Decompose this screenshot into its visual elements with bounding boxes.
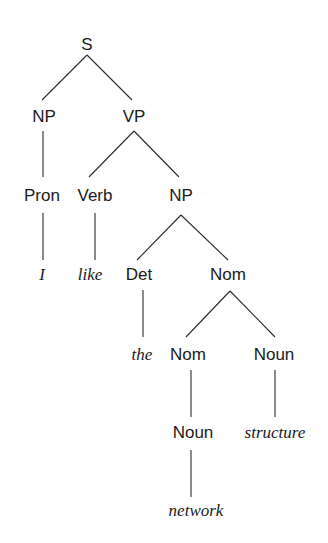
word-node-the: the	[132, 345, 153, 364]
category-node-det: Det	[126, 265, 153, 284]
edge-np2-nom1	[181, 215, 228, 260]
edge-s-vp	[87, 55, 132, 100]
category-node-pron: Pron	[24, 186, 60, 205]
parse-tree-diagram: SNPVPPronVerbNPIlikeDetNomtheNomNounNoun…	[0, 0, 328, 543]
edge-s-np1	[42, 55, 87, 100]
category-node-noun1: Noun	[254, 345, 295, 364]
category-node-verb: Verb	[78, 186, 113, 205]
category-node-noun2: Noun	[173, 423, 214, 442]
category-node-s: S	[81, 35, 92, 54]
category-node-vp: VP	[123, 107, 146, 126]
category-node-nom2: Nom	[170, 345, 206, 364]
edge-nom1-noun1	[230, 291, 275, 337]
category-node-nom1: Nom	[210, 265, 246, 284]
word-node-structure: structure	[245, 423, 306, 442]
word-node-network: network	[169, 501, 224, 520]
tree-nodes: SNPVPPronVerbNPIlikeDetNomtheNomNounNoun…	[24, 35, 306, 520]
word-node-i: I	[38, 265, 46, 284]
edge-vp-np2	[134, 131, 179, 177]
edge-vp-verb	[89, 131, 134, 177]
edge-nom1-nom2	[186, 291, 230, 337]
category-node-np1: NP	[32, 107, 56, 126]
word-node-like: like	[78, 265, 103, 284]
edge-np2-det	[137, 215, 181, 260]
category-node-np2: NP	[169, 186, 193, 205]
